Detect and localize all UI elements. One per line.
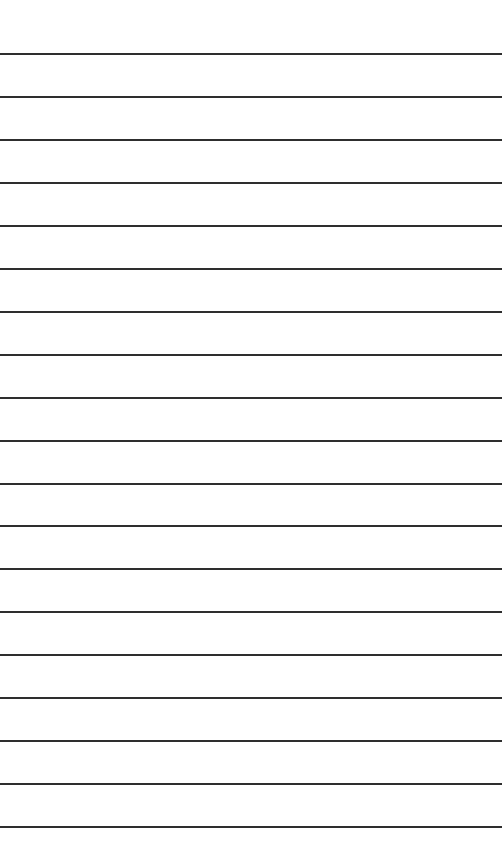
ruled-line — [0, 268, 502, 270]
ruled-line — [0, 483, 502, 485]
ruled-line — [0, 654, 502, 656]
ruled-line — [0, 697, 502, 699]
ruled-line — [0, 440, 502, 442]
ruled-line — [0, 354, 502, 356]
ruled-line — [0, 397, 502, 399]
ruled-line — [0, 225, 502, 227]
ruled-line — [0, 311, 502, 313]
ruled-line — [0, 826, 502, 828]
ruled-line — [0, 611, 502, 613]
ruled-line — [0, 96, 502, 98]
ruled-line — [0, 139, 502, 141]
ruled-line — [0, 53, 502, 55]
ruled-line — [0, 783, 502, 785]
ruled-line — [0, 182, 502, 184]
ruled-line — [0, 740, 502, 742]
ruled-line — [0, 568, 502, 570]
ruled-line — [0, 525, 502, 527]
